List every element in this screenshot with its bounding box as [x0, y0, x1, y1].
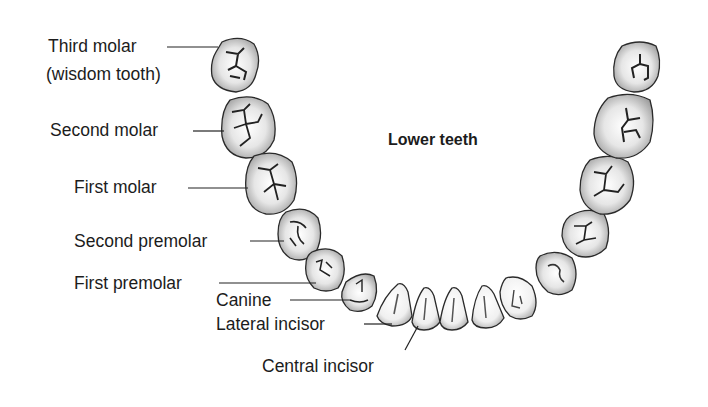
left-third-molar — [212, 38, 259, 92]
label-second-molar: Second molar — [50, 120, 158, 140]
right-central-incisor — [440, 288, 468, 330]
lower-teeth-diagram: Third molar (wisdom tooth) Second molar … — [0, 0, 708, 407]
right-lateral-incisor — [472, 286, 504, 328]
left-lateral-incisor — [377, 284, 412, 326]
left-first-premolar — [306, 249, 345, 291]
right-canine — [500, 277, 536, 319]
label-lateral-incisor: Lateral incisor — [216, 314, 325, 334]
diagram-title: Lower teeth — [388, 131, 478, 149]
label-second-premolar: Second premolar — [74, 231, 207, 251]
label-third-molar: Third molar — [48, 36, 137, 56]
label-first-molar: First molar — [74, 177, 157, 197]
right-third-molar — [614, 42, 660, 92]
leader-central-incisor — [405, 326, 418, 350]
label-central-incisor: Central incisor — [262, 356, 374, 376]
left-second-molar — [222, 97, 275, 158]
right-second-premolar — [562, 210, 609, 257]
label-canine: Canine — [216, 290, 271, 310]
right-first-molar — [580, 156, 634, 214]
left-first-molar — [246, 153, 297, 214]
right-second-molar — [594, 94, 653, 158]
right-first-premolar — [536, 252, 576, 294]
left-central-incisor — [412, 288, 440, 330]
dental-arch-illustration — [0, 0, 708, 407]
label-wisdom-tooth: (wisdom tooth) — [46, 64, 161, 84]
left-canine — [342, 274, 377, 311]
label-first-premolar: First premolar — [74, 273, 182, 293]
